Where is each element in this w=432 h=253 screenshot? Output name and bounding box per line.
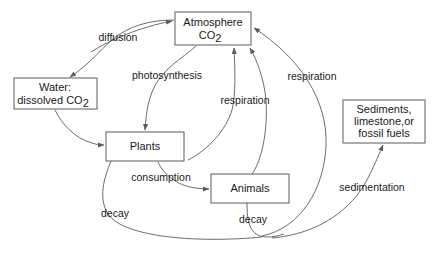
edge-photosynthesis-path (145, 46, 196, 130)
edge-label-respiration-plants: respiration (220, 94, 269, 106)
edge-respiration-animals: respiration (250, 48, 337, 174)
edge-label-sedimentation: sedimentation (339, 181, 405, 193)
carbon-cycle-canvas: diffusion photosynthesis respiration res… (0, 0, 432, 253)
edge-label-photosynthesis: photosynthesis (132, 69, 202, 81)
edge-decay-animals: decay (239, 203, 284, 237)
edge-label-decay-animals: decay (239, 213, 268, 225)
edge-photosynthesis: photosynthesis (132, 46, 202, 130)
edge-consumption: consumption (131, 162, 209, 189)
node-sediments[interactable]: Sediments, limestone,or fossil fuels (343, 100, 425, 143)
node-sediments-label-line3: fossil fuels (358, 127, 410, 139)
node-animals-label: Animals (230, 182, 270, 194)
carbon-cycle-diagram: diffusion photosynthesis respiration res… (0, 0, 432, 253)
node-atmosphere-label-line1: Atmosphere (183, 16, 242, 28)
node-sediments-label-line2: limestone,or (354, 115, 414, 127)
node-water[interactable]: Water: dissolved CO2 (14, 78, 97, 109)
node-plants[interactable]: Plants (106, 132, 184, 161)
edge-water-to-plants-path (55, 110, 104, 145)
node-sediments-label-line1: Sediments, (356, 103, 411, 115)
node-plants-label: Plants (130, 140, 161, 152)
edge-respiration-animals-path (250, 48, 266, 174)
edge-sedimentation: sedimentation (272, 145, 405, 238)
node-water-label-line1: Water: (39, 81, 71, 93)
node-atmosphere[interactable]: Atmosphere CO2 (175, 12, 251, 45)
edge-label-decay-plants: decay (101, 207, 130, 219)
edge-label-diffusion: diffusion (99, 31, 138, 43)
edge-water-to-plants (55, 110, 104, 145)
edge-label-consumption: consumption (131, 171, 191, 183)
edge-label-respiration-animals: respiration (287, 70, 336, 82)
node-animals[interactable]: Animals (211, 174, 289, 203)
